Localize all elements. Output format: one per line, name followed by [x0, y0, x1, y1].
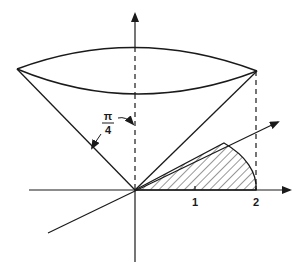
angle-numerator: π: [104, 110, 113, 122]
angle-arrow-right: [118, 118, 133, 124]
angle-denominator: 4: [105, 124, 112, 136]
tick-label-2: 2: [253, 196, 259, 208]
angle-arrow-left: [92, 134, 101, 148]
cone-rim-bottom: [17, 69, 257, 94]
cone-diagram: π 4 1 2: [0, 0, 301, 278]
cone-rim-top: [17, 47, 257, 71]
angle-label: π 4: [92, 110, 133, 148]
shaded-region: [135, 143, 256, 190]
tick-label-1: 1: [192, 196, 198, 208]
